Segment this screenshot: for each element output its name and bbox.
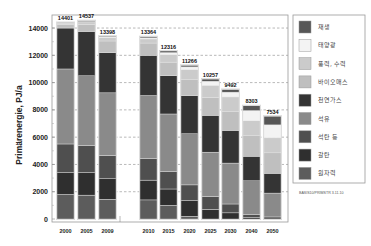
bar-segment — [202, 115, 219, 152]
bar-total-label: 13364 — [141, 29, 157, 35]
bar-segment — [222, 204, 239, 213]
x-tick-label: 2040 — [245, 228, 257, 234]
bar-segment — [243, 111, 260, 121]
x-tick-label: 2010 — [142, 228, 154, 234]
x-tick-label: 2009 — [101, 228, 113, 234]
legend-swatch — [299, 39, 311, 51]
bar-total-label: 10257 — [203, 72, 218, 78]
bar-segment — [99, 199, 116, 219]
bar-segment — [160, 76, 177, 114]
bar-segment — [160, 51, 177, 53]
legend-label: 석유 — [318, 115, 330, 123]
bar-segment — [222, 92, 239, 97]
x-tick-label: 2005 — [80, 228, 92, 234]
bar-segment — [181, 134, 198, 185]
bar-segment — [202, 209, 219, 219]
bar-2025: 10257 — [201, 72, 219, 220]
bar-segment — [264, 125, 281, 138]
y-axis: 02000400060008000100001200014000 — [29, 25, 55, 223]
bar-segment — [78, 31, 95, 75]
bar-segment — [57, 173, 74, 195]
bar-segment — [57, 23, 74, 24]
bar-segment — [181, 201, 198, 217]
y-tick-label: 10000 — [29, 79, 49, 86]
bar-segment — [181, 65, 198, 67]
bar-segment — [264, 116, 281, 125]
legend-swatch — [299, 149, 311, 161]
bar-segment — [57, 194, 74, 219]
bar-segment — [78, 173, 95, 196]
legend-swatch — [299, 94, 311, 106]
bar-segment — [99, 156, 116, 179]
bar-2000: 14401 — [56, 15, 74, 220]
bar-segment — [78, 25, 95, 32]
bar-segment — [160, 53, 177, 55]
legend-swatch — [299, 167, 311, 179]
bar-segment — [160, 189, 177, 205]
bars: 1440114537133981336412316112661025794928… — [56, 13, 281, 219]
bar-segment — [160, 55, 177, 63]
bar-total-label: 8303 — [245, 98, 257, 104]
legend-label: 석탄 등 — [318, 133, 338, 141]
bar-total-label: 7534 — [266, 109, 279, 115]
bar-segment — [222, 90, 239, 93]
bar-segment — [160, 205, 177, 219]
bar-segment — [243, 136, 260, 156]
legend-label: 갈탄 — [318, 151, 330, 158]
bar-segment — [140, 96, 157, 159]
x-tick-label: 2025 — [204, 228, 216, 234]
bar-total-label: 14537 — [79, 13, 94, 19]
bar-total-label: 11266 — [182, 58, 197, 64]
bar-segment — [243, 218, 260, 219]
bar-segment — [243, 106, 260, 111]
bar-2015: 12316 — [159, 44, 177, 220]
bar-segment — [264, 193, 281, 217]
bar-segment — [140, 55, 157, 95]
bar-segment — [222, 130, 239, 163]
bar-2040: 8303 — [242, 98, 260, 219]
legend-swatch — [299, 113, 311, 125]
bar-segment — [57, 69, 74, 144]
bar-segment — [264, 138, 281, 153]
bar-segment — [99, 179, 116, 199]
bar-segment — [99, 36, 116, 37]
legend-swatch — [299, 21, 311, 33]
bar-2030: 9492 — [221, 82, 239, 220]
bar-segment — [202, 85, 219, 97]
bar-segment — [222, 213, 239, 219]
legend-label: 태양광 — [318, 41, 336, 49]
bar-total-label: 12316 — [161, 44, 176, 50]
bar-segment — [57, 25, 74, 28]
bar-segment — [202, 79, 219, 81]
bar-segment — [243, 121, 260, 136]
legend-label: 재생 — [318, 23, 330, 31]
bar-segment — [181, 79, 198, 95]
bar-segment — [140, 180, 157, 200]
bar-segment — [264, 217, 281, 219]
x-tick-label: 2020 — [183, 228, 195, 234]
bar-segment — [202, 152, 219, 196]
x-tick-label: 2000 — [59, 228, 71, 234]
y-tick-label: 2000 — [32, 188, 48, 195]
legend-label: 천연가스 — [318, 96, 342, 104]
y-tick-label: 4000 — [32, 161, 48, 168]
y-tick-label: 14000 — [29, 25, 49, 32]
bar-segment — [78, 145, 95, 172]
bar-segment — [243, 214, 260, 217]
x-tick-label: 2030 — [224, 228, 236, 234]
bar-segment — [202, 98, 219, 116]
bar-segment — [160, 114, 177, 171]
legend-label: 풍력, 수력 — [318, 60, 346, 68]
bar-2020: 11266 — [180, 58, 198, 220]
bar-segment — [99, 38, 116, 41]
legend-swatch — [299, 131, 311, 143]
legend: 재생태양광풍력, 수력바이오매스천연가스석유석탄 등갈탄원자력 — [293, 15, 365, 183]
bar-segment — [222, 163, 239, 204]
x-tick-label: 2050 — [266, 228, 278, 234]
legend-label: 바이오매스 — [318, 78, 348, 86]
y-tick-label: 0 — [44, 216, 48, 223]
y-tick-label: 8000 — [32, 106, 48, 113]
bar-segment — [222, 97, 239, 111]
bar-segment — [78, 76, 95, 146]
bar-segment — [160, 62, 177, 76]
